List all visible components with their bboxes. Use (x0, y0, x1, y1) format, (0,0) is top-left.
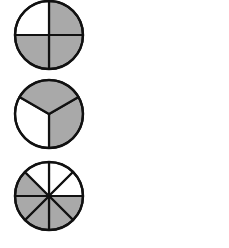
circle-eighths (15, 162, 83, 230)
circle-thirds (15, 80, 83, 148)
fraction-circles-diagram (0, 0, 229, 248)
circle-quarters (15, 1, 83, 69)
